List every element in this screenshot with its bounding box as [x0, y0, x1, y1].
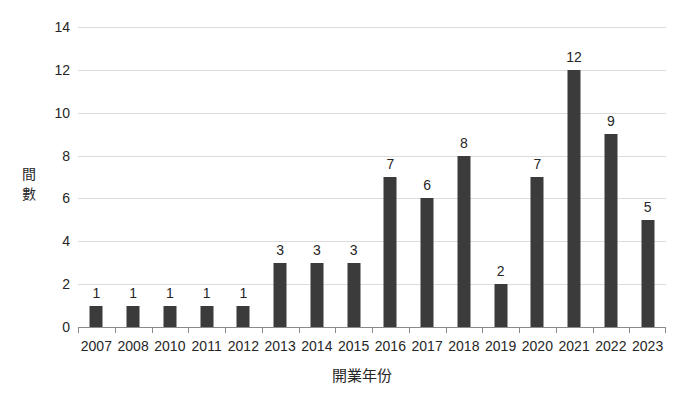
- bar-group: 2: [482, 27, 519, 327]
- bar-value-label: 7: [533, 157, 541, 171]
- y-axis-tick-label: 14: [42, 20, 70, 34]
- x-axis-tick: [556, 327, 557, 333]
- bar-value-label: 8: [460, 136, 468, 150]
- y-axis-tick-label: 4: [42, 234, 70, 248]
- x-axis-tick: [335, 327, 336, 333]
- bar-value-label: 1: [166, 286, 174, 300]
- bar-group: 8: [446, 27, 483, 327]
- bar-chart: 間 數 02468101214 11111333768271295 200720…: [0, 0, 682, 394]
- bar: [641, 220, 654, 327]
- x-axis-tick: [262, 327, 263, 333]
- bars-layer: 11111333768271295: [78, 27, 666, 327]
- bar-group: 1: [78, 27, 115, 327]
- x-axis-tick-label: 2022: [595, 338, 626, 354]
- x-axis-tick: [152, 327, 153, 333]
- bar-value-label: 3: [350, 243, 358, 257]
- bar-value-label: 1: [203, 286, 211, 300]
- bar-group: 3: [335, 27, 372, 327]
- bar-group: 1: [152, 27, 189, 327]
- bar: [568, 70, 581, 327]
- plot-area: 11111333768271295: [78, 27, 666, 327]
- x-axis-tick-label: 2021: [559, 338, 590, 354]
- bar-group: 3: [262, 27, 299, 327]
- bar-value-label: 7: [386, 157, 394, 171]
- x-axis-tick-label: 2014: [301, 338, 332, 354]
- x-axis-tick-label: 2013: [265, 338, 296, 354]
- x-axis-tick-labels: 2007200820102011201220132014201520162017…: [78, 338, 666, 358]
- bar-value-label: 1: [239, 286, 247, 300]
- bar-value-label: 12: [566, 50, 582, 64]
- y-axis-tick-label: 10: [42, 106, 70, 120]
- x-axis-tick-label: 2023: [632, 338, 663, 354]
- bar: [384, 177, 397, 327]
- bar-value-label: 6: [423, 178, 431, 192]
- bar: [604, 134, 617, 327]
- x-axis-tick-label: 2020: [522, 338, 553, 354]
- bar-group: 5: [629, 27, 666, 327]
- x-axis-tick-label: 2016: [375, 338, 406, 354]
- bar: [494, 284, 507, 327]
- bar: [237, 306, 250, 327]
- y-axis-tick-label: 12: [42, 63, 70, 77]
- x-axis-tick: [446, 327, 447, 333]
- x-axis-tick-label: 2012: [228, 338, 259, 354]
- x-axis-tick: [593, 327, 594, 333]
- bar-group: 1: [188, 27, 225, 327]
- x-axis-title: 開業年份: [0, 366, 682, 386]
- bar-value-label: 2: [497, 264, 505, 278]
- bar-value-label: 1: [92, 286, 100, 300]
- x-axis-tick: [225, 327, 226, 333]
- bar-group: 1: [115, 27, 152, 327]
- x-axis-tick: [665, 327, 666, 333]
- x-axis-tick-label: 2010: [154, 338, 185, 354]
- x-axis-tick-label: 2008: [118, 338, 149, 354]
- x-axis-tick: [372, 327, 373, 333]
- x-axis-tick: [482, 327, 483, 333]
- bar: [347, 263, 360, 327]
- x-axis-tick: [409, 327, 410, 333]
- bar-group: 6: [409, 27, 446, 327]
- x-axis-tick-label: 2011: [192, 338, 222, 354]
- bar: [200, 306, 213, 327]
- bar-group: 7: [519, 27, 556, 327]
- bar-value-label: 1: [129, 286, 137, 300]
- y-axis-tick-label: 2: [42, 277, 70, 291]
- bar-value-label: 3: [313, 243, 321, 257]
- bar-value-label: 5: [644, 200, 652, 214]
- x-axis-tick: [299, 327, 300, 333]
- x-axis-tick: [115, 327, 116, 333]
- bar: [531, 177, 544, 327]
- x-axis-tick: [629, 327, 630, 333]
- bar-group: 12: [556, 27, 593, 327]
- y-axis-tick-label: 8: [42, 149, 70, 163]
- bar: [90, 306, 103, 327]
- x-axis-tick-label: 2015: [338, 338, 369, 354]
- bar: [457, 156, 470, 327]
- y-axis-tick-label: 6: [42, 191, 70, 205]
- bar: [421, 198, 434, 327]
- x-axis-tick: [188, 327, 189, 333]
- bar-value-label: 9: [607, 114, 615, 128]
- x-axis-tick-label: 2007: [81, 338, 112, 354]
- bar: [274, 263, 287, 327]
- x-axis-tick: [519, 327, 520, 333]
- bar-group: 7: [372, 27, 409, 327]
- y-axis-tick-label: 0: [42, 320, 70, 334]
- bar: [310, 263, 323, 327]
- bar-group: 3: [299, 27, 336, 327]
- x-axis-tick-label: 2018: [448, 338, 479, 354]
- x-axis-tick: [78, 327, 79, 333]
- x-axis-tick-label: 2017: [412, 338, 443, 354]
- bar-value-label: 3: [276, 243, 284, 257]
- bar: [127, 306, 140, 327]
- bar-group: 1: [225, 27, 262, 327]
- x-axis-tick-label: 2019: [485, 338, 516, 354]
- x-axis-ticks: [78, 327, 666, 333]
- bar: [163, 306, 176, 327]
- bar-group: 9: [593, 27, 630, 327]
- y-axis-tick-labels: 02468101214: [40, 0, 70, 394]
